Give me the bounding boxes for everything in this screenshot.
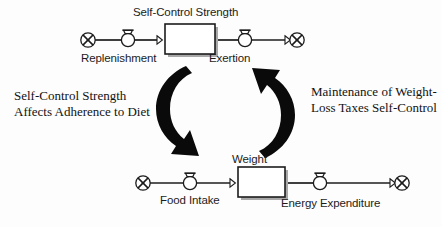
flow-arrowhead-into-stock-top bbox=[157, 36, 162, 44]
stock-label-weight: Weight bbox=[232, 153, 267, 165]
valve-icon-food-intake bbox=[183, 173, 196, 189]
stock-label-self-control-strength: Self-Control Strength bbox=[133, 6, 238, 18]
cloud-icon-source-top bbox=[81, 33, 95, 47]
cloud-icon-source-bottom bbox=[136, 176, 150, 190]
valve-icon-energy-expenditure bbox=[313, 173, 326, 189]
stock-box-self-control-strength bbox=[165, 24, 215, 54]
diagram-canvas: Self-Control Strength Replenishment Exer… bbox=[0, 0, 442, 227]
annotation-right: Maintenance of Weight-Loss Taxes Self-Co… bbox=[311, 84, 441, 115]
valve-icon-replenishment bbox=[121, 30, 134, 46]
cloud-icon-sink-bottom bbox=[395, 176, 409, 190]
curved-arrow-up-icon bbox=[252, 68, 295, 158]
stock-box-weight bbox=[238, 167, 285, 197]
annotation-left: Self-Control Strength Affects Adherence … bbox=[14, 88, 164, 119]
flow-label-energy-expenditure: Energy Expenditure bbox=[281, 197, 380, 209]
flow-label-food-intake: Food Intake bbox=[160, 194, 220, 206]
flow-label-replenishment: Replenishment bbox=[81, 52, 156, 64]
flow-label-exertion: Exertion bbox=[209, 52, 250, 64]
flow-arrowhead-into-stock-bottom bbox=[230, 179, 235, 187]
valve-icon-exertion bbox=[238, 30, 251, 46]
cloud-icon-sink-top bbox=[290, 33, 304, 47]
